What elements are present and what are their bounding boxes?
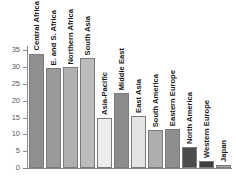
bar-eastern-europe[interactable]	[165, 129, 180, 168]
bar-northern-africa[interactable]	[63, 67, 78, 168]
y-tick-mark	[23, 134, 27, 135]
bar-south-asia[interactable]	[80, 58, 95, 168]
y-tick-mark	[23, 50, 27, 51]
y-tick-label: 30	[12, 62, 20, 71]
y-tick-mark	[23, 151, 27, 152]
y-tick-mark	[23, 84, 27, 85]
y-tick-mark	[23, 101, 27, 102]
y-tick-label: 0	[16, 163, 20, 172]
y-tick-mark	[23, 67, 27, 68]
y-tick-mark	[23, 168, 27, 169]
bar-asia-pacific[interactable]	[97, 118, 112, 168]
bars-container	[28, 0, 232, 168]
y-tick-label: 25	[12, 79, 20, 88]
bar-western-europe[interactable]	[199, 161, 214, 168]
bar-middle-east[interactable]	[114, 93, 129, 168]
y-tick-label: 20	[12, 96, 20, 105]
y-tick-label: 35	[12, 45, 20, 54]
bar-chart: 05101520253035 Central AfricaE. and S. A…	[0, 0, 236, 180]
y-tick-label: 15	[12, 113, 20, 122]
bar-south-america[interactable]	[148, 130, 163, 168]
y-tick-mark	[23, 118, 27, 119]
y-tick-label: 5	[16, 146, 20, 155]
bar-east-asia[interactable]	[131, 116, 146, 168]
y-tick-label: 10	[12, 129, 20, 138]
bar-north-america[interactable]	[182, 147, 197, 168]
bar-central-africa[interactable]	[29, 54, 44, 168]
bar-e-and-s-africa[interactable]	[46, 68, 61, 168]
bar-japan[interactable]	[216, 165, 231, 168]
x-axis-line	[27, 168, 232, 169]
